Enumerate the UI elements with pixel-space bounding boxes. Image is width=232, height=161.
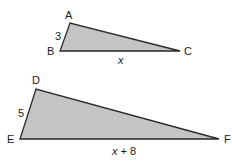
triangle-def: [20, 89, 219, 139]
vertex-label-c: C: [184, 45, 192, 57]
side-label-de: 5: [18, 107, 24, 119]
vertex-label-a: A: [65, 9, 73, 21]
side-label-ef: x + 8: [111, 145, 136, 157]
side-label-ab: 3: [55, 30, 61, 42]
vertex-label-b: B: [47, 45, 54, 57]
triangle-abc: [60, 23, 180, 51]
vertex-label-d: D: [32, 74, 40, 86]
side-label-bc: x: [117, 54, 124, 66]
side-label-ef-constant: + 8: [118, 145, 137, 157]
vertex-label-e: E: [7, 133, 14, 145]
similar-triangles-diagram: A B C 3 x D E F 5 x + 8: [0, 0, 232, 161]
vertex-label-f: F: [224, 133, 231, 145]
